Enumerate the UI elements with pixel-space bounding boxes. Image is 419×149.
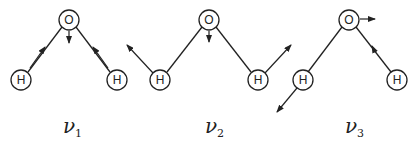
- mode-label: ν: [205, 114, 217, 138]
- mode-subscript: 2: [217, 127, 224, 140]
- mode-label: ν: [345, 114, 357, 138]
- mode-label: ν: [63, 114, 75, 138]
- hydrogen-label: H: [156, 73, 165, 87]
- hydrogen-label: H: [113, 73, 122, 87]
- bond-line: [167, 27, 202, 72]
- displacement-arrow-icon: [93, 47, 108, 68]
- displacement-arrow-icon: [127, 45, 153, 73]
- oxygen-label: O: [344, 13, 353, 27]
- mode-subscript: 1: [75, 127, 82, 140]
- displacement-arrow-icon: [277, 88, 297, 112]
- bond-line: [28, 27, 62, 72]
- bond-line: [216, 27, 251, 72]
- oxygen-label: O: [204, 13, 213, 27]
- mode-subscript: 3: [357, 127, 364, 140]
- bond-line: [308, 27, 342, 72]
- hydrogen-label: H: [17, 73, 26, 87]
- mode-1-symmetric-stretch: O H H ν 1: [11, 10, 127, 140]
- hydrogen-label: H: [393, 73, 402, 87]
- displacement-arrow-icon: [265, 45, 291, 73]
- mode-2-bend: O H H ν 2: [127, 10, 291, 140]
- oxygen-label: O: [64, 13, 73, 27]
- hydrogen-label: H: [254, 73, 263, 87]
- hydrogen-label: H: [299, 73, 308, 87]
- water-vibrational-modes-diagram: O H H ν 1 O H H ν 2 O H H ν 3: [0, 0, 419, 149]
- bond-line: [76, 27, 110, 72]
- displacement-arrow-icon: [30, 47, 45, 68]
- mode-3-asymmetric-stretch: O H H ν 3: [277, 10, 407, 140]
